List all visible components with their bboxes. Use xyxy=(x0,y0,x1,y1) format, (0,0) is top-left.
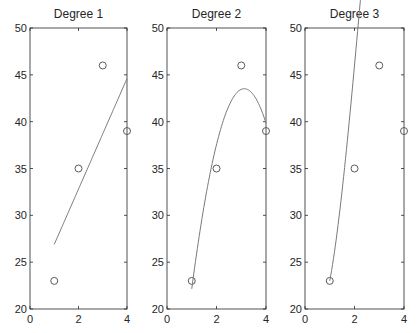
subplot-grid: Degree 1 20253035404550024 Degree 2 2025… xyxy=(0,0,417,333)
y-tick-label: 20 xyxy=(15,303,27,315)
data-point-marker xyxy=(75,165,82,172)
y-tick-label: 30 xyxy=(152,209,164,221)
axes-box xyxy=(30,28,127,309)
x-tick-label: 4 xyxy=(263,313,269,325)
y-tick-label: 30 xyxy=(15,209,27,221)
fit-curve xyxy=(192,89,266,289)
y-tick-label: 35 xyxy=(290,163,302,175)
x-tick-label: 0 xyxy=(27,313,33,325)
data-point-marker xyxy=(238,62,245,69)
axes-box xyxy=(167,28,266,309)
data-point-marker xyxy=(99,62,106,69)
data-point-marker xyxy=(376,62,383,69)
data-point-marker xyxy=(213,165,220,172)
x-tick-label: 0 xyxy=(302,313,308,325)
fit-curve xyxy=(54,79,127,245)
x-tick-label: 2 xyxy=(351,313,357,325)
y-tick-label: 35 xyxy=(152,163,164,175)
y-tick-label: 20 xyxy=(152,303,164,315)
subplot-title: Degree 1 xyxy=(54,7,104,21)
figure: Degree 1 20253035404550024 Degree 2 2025… xyxy=(0,0,417,333)
y-tick-label: 40 xyxy=(15,116,27,128)
y-tick-label: 45 xyxy=(152,69,164,81)
y-tick-label: 45 xyxy=(15,69,27,81)
y-tick-label: 30 xyxy=(290,209,302,221)
y-tick-label: 50 xyxy=(290,22,302,34)
y-tick-label: 20 xyxy=(290,303,302,315)
subplot-degree-1: Degree 1 20253035404550024 xyxy=(15,7,131,325)
y-tick-label: 25 xyxy=(152,256,164,268)
fit-curve xyxy=(330,0,404,281)
data-point-marker xyxy=(188,277,195,284)
x-tick-label: 4 xyxy=(401,313,407,325)
y-tick-label: 40 xyxy=(290,116,302,128)
y-tick-label: 40 xyxy=(152,116,164,128)
y-tick-label: 50 xyxy=(152,22,164,34)
subplot-title: Degree 2 xyxy=(192,7,242,21)
subplot-degree-2: Degree 2 20253035404550024 xyxy=(152,7,270,325)
y-tick-label: 35 xyxy=(15,163,27,175)
y-tick-label: 25 xyxy=(15,256,27,268)
subplot-title: Degree 3 xyxy=(330,7,380,21)
subplot-degree-3: Degree 3 20253035404550024 xyxy=(290,0,408,325)
y-tick-label: 25 xyxy=(290,256,302,268)
x-tick-label: 2 xyxy=(213,313,219,325)
data-point-marker xyxy=(51,277,58,284)
data-point-marker xyxy=(351,165,358,172)
y-tick-label: 45 xyxy=(290,69,302,81)
x-tick-label: 2 xyxy=(75,313,81,325)
x-tick-label: 0 xyxy=(164,313,170,325)
y-tick-label: 50 xyxy=(15,22,27,34)
x-tick-label: 4 xyxy=(124,313,130,325)
